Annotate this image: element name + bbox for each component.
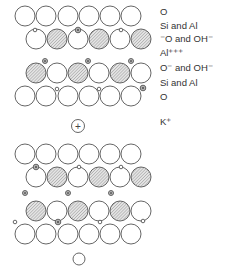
hydroxyl-atom — [26, 63, 46, 83]
hydroxyl-atom — [68, 63, 88, 83]
silicon-ion — [119, 28, 123, 32]
silicon-ion — [98, 220, 102, 224]
oxygen-atom — [110, 167, 130, 187]
oxygen-atom — [79, 86, 99, 106]
oxygen-atom — [36, 224, 56, 244]
layer-label: O⁻ and OH⁻ — [160, 62, 213, 73]
layer-label: Si and Al — [160, 77, 198, 88]
oxygen-atom — [58, 224, 78, 244]
hydroxyl-atom — [89, 29, 109, 49]
oxygen-atom — [15, 86, 35, 106]
oxygen-atom — [68, 167, 88, 187]
layer-label: O — [160, 91, 167, 102]
silicon-ion — [119, 165, 123, 169]
oxygen-atom — [47, 201, 67, 221]
hydroxyl-atom — [110, 201, 130, 221]
hydroxyl-atom — [110, 63, 130, 83]
oxygen-atom — [100, 144, 120, 164]
oxygen-atom — [121, 144, 141, 164]
hydroxyl-atom — [68, 201, 88, 221]
oxygen-atom — [15, 144, 35, 164]
oxygen-atom — [58, 144, 78, 164]
oxygen-atom — [131, 201, 151, 221]
oxygen-atom — [100, 224, 120, 244]
oxygen-atom — [79, 224, 99, 244]
silicon-ion — [33, 28, 37, 32]
silicon-ion — [97, 87, 101, 91]
hydroxyl-atom — [131, 167, 151, 187]
oxygen-atom — [73, 253, 85, 265]
oxygen-atom — [36, 6, 56, 26]
oxygen-atom — [121, 6, 141, 26]
potassium-ion-plus-icon: + — [75, 121, 81, 132]
oxygen-atom — [121, 224, 141, 244]
silicon-ion — [55, 87, 59, 91]
layer-label: Si and Al — [160, 20, 198, 31]
layer-label: Al⁺⁺⁺ — [160, 47, 183, 58]
oxygen-atom — [100, 6, 120, 26]
oxygen-atom — [89, 201, 109, 221]
oxygen-atom — [79, 6, 99, 26]
oxygen-atom — [47, 63, 67, 83]
hydroxyl-atom — [47, 167, 67, 187]
hydroxyl-atom — [47, 29, 67, 49]
oxygen-atom — [58, 6, 78, 26]
oxygen-atom — [15, 224, 35, 244]
oxygen-atom — [131, 63, 151, 83]
oxygen-atom — [100, 86, 120, 106]
hydroxyl-atom — [26, 201, 46, 221]
layer-label: O — [160, 6, 167, 17]
layer-label: K⁺ — [160, 116, 171, 127]
oxygen-atom — [89, 63, 109, 83]
silicon-ion — [13, 220, 17, 224]
layer-label: ⁻O and OH⁻ — [160, 33, 213, 44]
oxygen-atom — [36, 144, 56, 164]
oxygen-atom — [15, 6, 35, 26]
oxygen-atom — [121, 86, 141, 106]
hydroxyl-atom — [131, 29, 151, 49]
hydroxyl-atom — [89, 167, 109, 187]
silicon-ion — [77, 165, 81, 169]
oxygen-atom — [79, 144, 99, 164]
oxygen-atom — [36, 86, 56, 106]
oxygen-atom — [58, 86, 78, 106]
silicon-ion — [141, 219, 145, 223]
